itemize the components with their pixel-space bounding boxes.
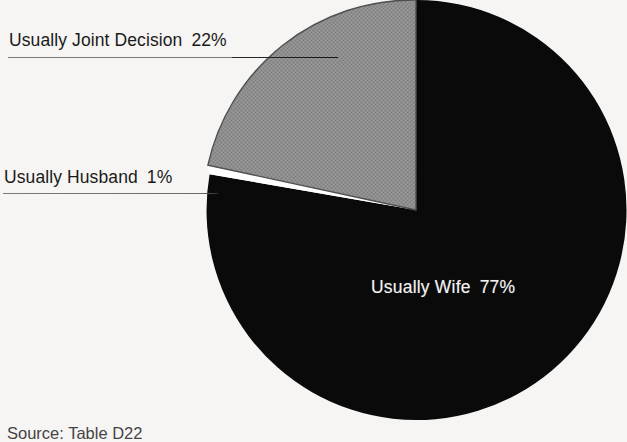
callout-joint-decision: Usually Joint Decision22% (9, 30, 227, 51)
callout-husband: Usually Husband1% (4, 167, 172, 188)
callout-husband-percent: 1% (147, 167, 173, 187)
callout-wife: Usually Wife77% (371, 277, 515, 298)
callout-wife-percent: 77% (480, 277, 516, 297)
pie-chart-graphic (205, 0, 627, 436)
callout-husband-label: Usually Husband (4, 167, 138, 187)
pie-svg (205, 0, 627, 436)
pie-chart-figure: Usually Joint Decision22% Usually Husban… (0, 0, 627, 442)
callout-joint-decision-label: Usually Joint Decision (9, 30, 182, 50)
callout-joint-decision-percent: 22% (191, 30, 226, 50)
source-note: Source: Table D22 (7, 424, 142, 442)
callout-wife-label: Usually Wife (371, 277, 471, 297)
leader-line-joint-decision (8, 57, 338, 58)
leader-line-husband (3, 193, 218, 194)
